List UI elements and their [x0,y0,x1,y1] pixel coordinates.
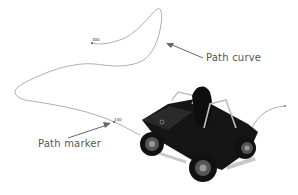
arrowhead-icon [103,122,111,128]
vehicle-icon [140,86,258,182]
path-marker-value-label: 140 [114,117,122,122]
path-curve-label: Path curve [206,52,261,63]
start-marker-label: 300 [92,37,100,42]
path-curve [15,9,162,135]
path-marker-arrow [68,125,107,138]
path-curve-arrow [170,44,203,58]
start-marker-dot [91,42,93,44]
diagram-canvas [0,0,298,195]
trailing-path-curve [252,106,284,128]
path-marker-label: Path marker [38,138,101,149]
trailing-end-dot [284,105,286,107]
